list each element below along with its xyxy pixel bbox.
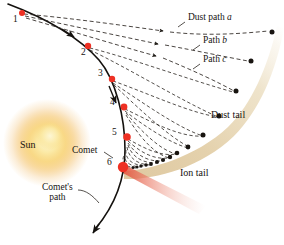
- comet-path-label-line2: path: [42, 193, 73, 203]
- path-b-letter: b: [222, 35, 227, 45]
- path-c-label: Path c: [203, 55, 226, 65]
- position-number-3: 3: [98, 68, 103, 78]
- sun-label: Sun: [20, 140, 36, 151]
- position-number-6: 6: [107, 157, 112, 167]
- diagram-canvas: [0, 0, 284, 245]
- path-c-letter: c: [222, 54, 226, 64]
- path-b-label: Path b: [203, 36, 227, 46]
- position-number-5: 5: [112, 127, 117, 137]
- comet-diagram-figure: Dust path a Path b Path c Dust tail Ion …: [0, 0, 284, 245]
- position-number-4: 4: [110, 97, 115, 107]
- dust-path-a-label: Dust path a: [188, 13, 232, 23]
- dust-tail-label: Dust tail: [211, 110, 245, 121]
- comet-path-label: Comet's path: [42, 183, 73, 203]
- dust-path-a-letter: a: [227, 12, 232, 22]
- comet-label: Comet: [72, 146, 97, 156]
- ion-tail-label: Ion tail: [180, 168, 209, 179]
- position-number-1: 1: [13, 14, 18, 24]
- position-number-2: 2: [81, 47, 86, 57]
- sun-glow: [3, 99, 91, 187]
- dust-tail-band: [124, 26, 284, 179]
